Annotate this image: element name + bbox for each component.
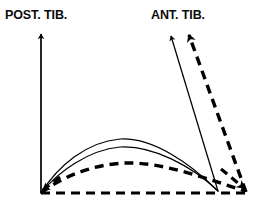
ant-tib-label: ANT. TIB.	[151, 9, 205, 22]
ant-tib-dashed-arrow	[189, 35, 246, 192]
figure-root: POST. TIB. ANT. TIB.	[0, 0, 259, 209]
post-tib-label: POST. TIB.	[5, 9, 67, 22]
post-tib-curve-inner	[41, 147, 218, 193]
baseline-dashed-arrow-right	[221, 169, 244, 188]
figure-canvas	[0, 0, 259, 209]
ant-tib-thin-arrow	[171, 36, 218, 191]
